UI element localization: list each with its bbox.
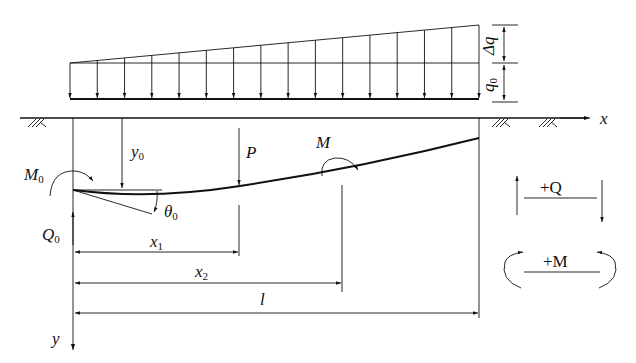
shear-sign-label: +Q — [540, 178, 562, 197]
shear-sign-convention: +Q — [517, 176, 602, 222]
q0-shear-label: Q0 — [42, 225, 60, 245]
ground-surface: x — [20, 109, 608, 128]
ground-hatch-right-1 — [492, 119, 510, 127]
load-arrows — [70, 25, 479, 98]
p-label: P — [245, 143, 256, 162]
l-label: l — [260, 290, 265, 309]
dq-label: Δq — [479, 36, 498, 56]
x2-label: x2 — [194, 262, 208, 282]
x-axis-label: x — [599, 109, 608, 128]
theta0-label: θ0 — [164, 202, 178, 222]
load-dimension: Δq q0 — [479, 25, 518, 102]
m-label: M — [315, 133, 331, 152]
moment-sign-convention: +M — [504, 252, 616, 288]
distributed-load — [70, 25, 479, 99]
beam-diagram: Δq q0 x y y0 θ0 M0 Q0 P — [0, 0, 636, 363]
moment-sign-label: +M — [543, 252, 568, 271]
ground-hatch-right-2 — [539, 119, 557, 127]
x1-label: x1 — [149, 232, 163, 252]
m0-label: M0 — [23, 165, 44, 185]
y-axis-label: y — [50, 329, 60, 348]
load-slope-line — [70, 25, 479, 63]
q0-label: q0 — [479, 78, 499, 93]
y0-label: y0 — [129, 142, 145, 162]
ground-hatch-left — [28, 119, 46, 127]
